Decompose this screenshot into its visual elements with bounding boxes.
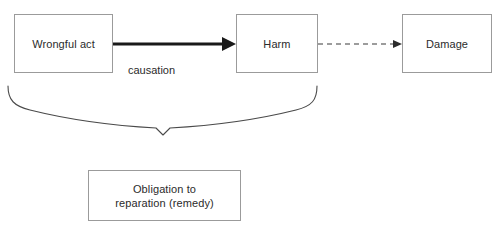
node-wrongful-act: Wrongful act [14, 14, 113, 73]
edge-label-causation: causation [128, 64, 175, 77]
caption-clipped [6, 226, 86, 235]
node-obligation-to-reparation-label: Obligation to reparation (remedy) [115, 182, 214, 210]
node-wrongful-act-label: Wrongful act [32, 37, 95, 51]
grouping-brace [8, 86, 317, 135]
edge-harm-to-damage-arrow [318, 40, 402, 48]
node-damage: Damage [402, 14, 492, 73]
edge-causation-arrow [113, 37, 236, 51]
node-harm-label: Harm [263, 37, 290, 51]
node-harm: Harm [236, 14, 318, 73]
diagram-canvas: Wrongful act Harm Damage Obligation to r… [0, 0, 495, 235]
node-obligation-to-reparation: Obligation to reparation (remedy) [88, 170, 241, 221]
node-damage-label: Damage [426, 37, 468, 51]
